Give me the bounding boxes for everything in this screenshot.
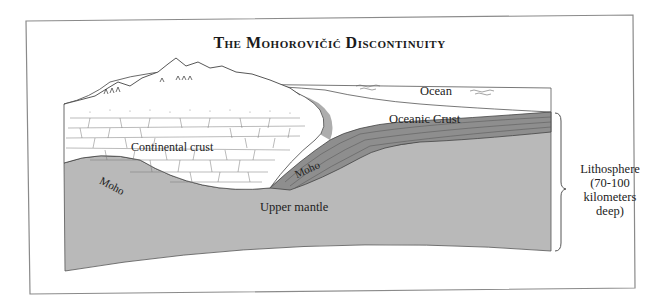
lithosphere-line-2: (70-100 <box>567 176 653 190</box>
label-upper-mantle: Upper mantle <box>260 201 328 214</box>
label-oceanic-crust: Oceanic Crust <box>389 113 460 126</box>
lithosphere-line-3: kilometers <box>567 190 653 204</box>
lithosphere-line-1: Lithosphere <box>567 162 653 176</box>
label-continental-crust: Continental crust <box>131 141 213 153</box>
label-ocean: Ocean <box>420 85 452 98</box>
label-lithosphere: Lithosphere (70-100 kilometers deep) <box>567 162 653 218</box>
figure-title: The Mohorovičić Discontinuity <box>0 34 659 52</box>
lithosphere-line-4: deep) <box>567 204 653 218</box>
